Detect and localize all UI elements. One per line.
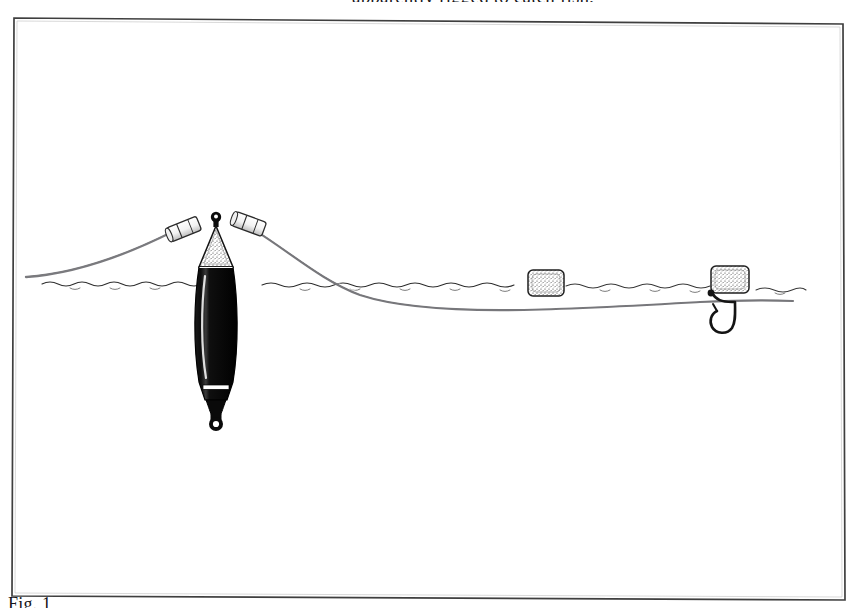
figure-frame-border — [12, 18, 845, 600]
float-bottom-eyelet — [209, 417, 223, 431]
floating-bait-middle — [528, 270, 564, 296]
figure-illustration — [0, 0, 851, 608]
hook-bait-right — [711, 266, 749, 293]
float-base-band — [203, 385, 229, 389]
float-body — [195, 267, 237, 400]
